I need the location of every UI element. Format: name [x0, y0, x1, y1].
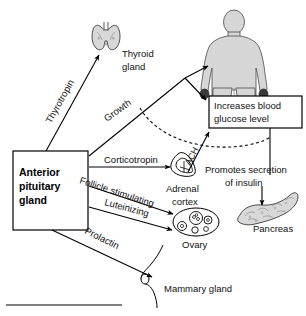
label-thyrotropin: Thyrotropin	[43, 78, 76, 125]
connector-corticotropin: Corticotropin	[89, 154, 170, 167]
glucose-effect-box[interactable]: Increases blood glucose level	[209, 96, 302, 128]
insulin-label-line2: of insulin	[225, 177, 263, 188]
pancreas-label: Pancreas	[253, 223, 293, 234]
pancreas-icon	[238, 193, 298, 225]
label-mammary-gland: Mammary gland	[164, 283, 232, 294]
connector-thyrotropin: Thyrotropin	[43, 55, 99, 151]
thyroid-label-line1: Thyroid	[122, 48, 154, 59]
endocrine-diagram: Anterior pituitary gland Increases blood…	[0, 0, 306, 316]
glucose-label-line1: Increases blood	[214, 100, 281, 111]
label-pancreas: Pancreas	[253, 223, 293, 234]
ovary-label: Ovary	[182, 239, 208, 250]
label-corticotropin: Corticotropin	[104, 154, 158, 165]
diagram-page: Anterior pituitary gland Increases blood…	[0, 0, 306, 316]
insulin-note: Promotes secretion of insulin	[205, 164, 287, 188]
anterior-pituitary-box[interactable]: Anterior pituitary gland	[13, 151, 88, 230]
thyroid-label-line2: gland	[122, 61, 145, 72]
pituitary-label-line2: pituitary	[19, 180, 61, 192]
mammary-label: Mammary gland	[164, 283, 232, 294]
ovary-icon	[173, 208, 219, 236]
connector-prolactin: Prolactin	[52, 225, 152, 277]
pituitary-label-line1: Anterior	[19, 166, 60, 178]
adrenal-label-line1: Adrenal	[166, 183, 199, 194]
label-adrenal-cortex: Adrenal cortex	[166, 183, 199, 207]
label-growth: Growth	[102, 97, 133, 124]
label-thyroid-gland: Thyroid gland	[122, 48, 154, 72]
label-ach: ACH	[183, 145, 201, 166]
pituitary-label-line3: gland	[19, 194, 47, 206]
glucose-label-line2: glucose level	[214, 113, 269, 124]
thyroid-gland-icon	[92, 22, 120, 50]
insulin-label-line1: Promotes secretion	[205, 164, 287, 175]
label-ovary: Ovary	[182, 239, 208, 250]
adrenal-label-line2: cortex	[172, 196, 198, 207]
human-body-icon	[200, 10, 268, 104]
